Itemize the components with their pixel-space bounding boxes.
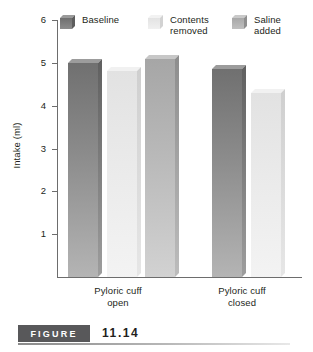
x-axis-label-pyloric-cuff-open: Pyloric cuff open xyxy=(58,285,178,308)
y-tick-label-3: 3 xyxy=(10,144,46,154)
y-tick-6 xyxy=(52,20,57,21)
y-tick-label-5: 5 xyxy=(10,58,46,68)
y-axis-line xyxy=(57,20,58,277)
figure-badge: FIGURE xyxy=(18,325,90,342)
y-tick-label-4: 4 xyxy=(10,101,46,111)
y-tick-1 xyxy=(52,234,57,235)
y-tick-label-6: 6 xyxy=(10,15,46,25)
y-tick-label-2: 2 xyxy=(10,186,46,196)
bar-pyloric-cuff-open-baseline xyxy=(68,59,98,277)
y-tick-5 xyxy=(52,63,57,64)
y-tick-4 xyxy=(52,106,57,107)
x-axis-label-pyloric-cuff-closed: Pyloric cuff closed xyxy=(182,285,302,308)
figure-container: Baseline Contents removed Saline added I… xyxy=(0,0,313,352)
y-tick-3 xyxy=(52,149,57,150)
bar-pyloric-cuff-closed-contents-removed xyxy=(251,89,281,277)
figure-number: 11.14 xyxy=(102,326,139,340)
y-tick-2 xyxy=(52,191,57,192)
caption-divider xyxy=(18,343,290,345)
y-tick-label-1: 1 xyxy=(10,229,46,239)
bar-pyloric-cuff-closed-baseline xyxy=(212,65,242,277)
figure-caption: FIGURE 11.14 xyxy=(18,325,298,347)
plot-area: Intake (ml) 123456 Pyloric cuff open Pyl… xyxy=(0,0,313,300)
x-axis-line xyxy=(57,277,302,278)
bar-pyloric-cuff-open-contents-removed xyxy=(107,67,137,277)
bar-pyloric-cuff-open-saline-added xyxy=(145,55,175,277)
